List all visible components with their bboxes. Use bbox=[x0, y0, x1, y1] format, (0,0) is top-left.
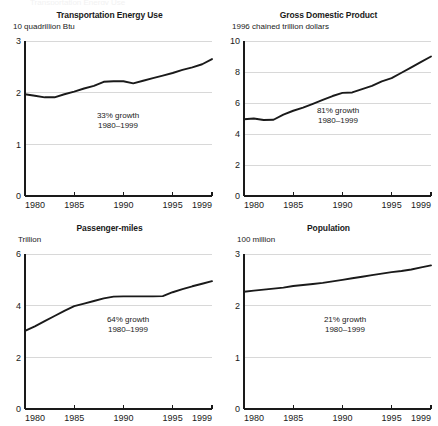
y-tick-label: 8 bbox=[235, 67, 240, 77]
x-tick-label: 1980 bbox=[244, 200, 264, 210]
chart-panel: Passenger-milesTrillion02461980198519901… bbox=[0, 213, 219, 426]
x-tick-label: 1985 bbox=[64, 413, 84, 423]
x-tick-label: 1999 bbox=[411, 413, 431, 423]
growth-annotation: 33% growth bbox=[97, 111, 139, 120]
x-tick-label: 1980 bbox=[244, 413, 264, 423]
line-chart: 01231980198519901995199921% growth1980–1… bbox=[219, 213, 438, 426]
x-tick-label: 1995 bbox=[163, 200, 183, 210]
growth-annotation: 64% growth bbox=[107, 315, 149, 324]
growth-annotation: 21% growth bbox=[324, 315, 366, 324]
x-tick-label: 1980 bbox=[25, 413, 45, 423]
series-line bbox=[244, 265, 431, 291]
line-chart: 02468101980198519901995199981% growth198… bbox=[219, 0, 438, 213]
x-tick-label: 1990 bbox=[332, 200, 352, 210]
y-tick-label: 6 bbox=[16, 249, 21, 259]
x-tick-label: 1980 bbox=[25, 200, 45, 210]
growth-annotation: 1980–1999 bbox=[325, 325, 366, 334]
y-tick-label: 4 bbox=[235, 129, 240, 139]
y-tick-label: 0 bbox=[235, 404, 240, 414]
x-tick-label: 1999 bbox=[192, 413, 212, 423]
line-chart: 02461980198519901995199964% growth1980–1… bbox=[0, 213, 219, 426]
x-tick-label: 1985 bbox=[64, 200, 84, 210]
y-tick-label: 2 bbox=[16, 88, 21, 98]
y-tick-label: 0 bbox=[235, 191, 240, 201]
x-tick-label: 1990 bbox=[113, 413, 133, 423]
growth-annotation: 81% growth bbox=[317, 106, 359, 115]
series-line bbox=[25, 59, 212, 97]
growth-annotation: 1980–1999 bbox=[108, 325, 149, 334]
y-tick-label: 10 bbox=[230, 36, 240, 46]
y-tick-label: 3 bbox=[16, 36, 21, 46]
chart-grid: Transportation Energy Use10 quadrillion … bbox=[0, 0, 438, 426]
x-tick-label: 1990 bbox=[332, 413, 352, 423]
chart-panel: Gross Domestic Product1996 chained trill… bbox=[219, 0, 438, 213]
y-tick-label: 6 bbox=[235, 98, 240, 108]
x-tick-label: 1999 bbox=[192, 200, 212, 210]
x-tick-label: 1995 bbox=[382, 200, 402, 210]
x-tick-label: 1995 bbox=[382, 413, 402, 423]
x-tick-label: 1990 bbox=[113, 200, 133, 210]
chart-panel: Population100 million0123198019851990199… bbox=[219, 213, 438, 426]
y-tick-label: 1 bbox=[16, 140, 21, 150]
y-tick-label: 0 bbox=[16, 191, 21, 201]
y-tick-label: 2 bbox=[235, 160, 240, 170]
x-tick-label: 1999 bbox=[411, 200, 431, 210]
y-tick-label: 1 bbox=[235, 353, 240, 363]
y-tick-label: 0 bbox=[16, 404, 21, 414]
line-chart: 01231980198519901995199933% growth1980–1… bbox=[0, 0, 219, 213]
growth-annotation: 1980–1999 bbox=[98, 121, 139, 130]
x-tick-label: 1995 bbox=[163, 413, 183, 423]
x-tick-label: 1985 bbox=[283, 200, 303, 210]
y-tick-label: 2 bbox=[16, 353, 21, 363]
y-tick-label: 3 bbox=[235, 249, 240, 259]
y-tick-label: 4 bbox=[16, 301, 21, 311]
x-tick-label: 1985 bbox=[283, 413, 303, 423]
growth-annotation: 1980–1999 bbox=[318, 116, 359, 125]
y-tick-label: 2 bbox=[235, 301, 240, 311]
chart-panel: Transportation Energy Use10 quadrillion … bbox=[0, 0, 219, 213]
